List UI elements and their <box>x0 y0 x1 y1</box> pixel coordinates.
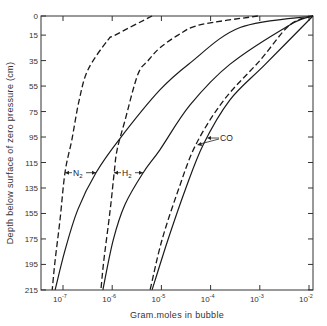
y-tick-label: 175 <box>25 235 39 244</box>
y-tick-label: 75 <box>29 108 38 117</box>
svg-text:CO: CO <box>220 133 233 143</box>
x-tick-label: 10-4 <box>201 293 215 304</box>
n2-annotation: N2 <box>65 168 96 179</box>
co-annotation: CO <box>197 133 233 146</box>
series-n2-solid <box>55 16 313 290</box>
svg-text:H2: H2 <box>122 168 132 179</box>
series-co-dashed <box>150 16 313 290</box>
x-axis-title: Gram.moles in bubble <box>130 310 224 320</box>
y-tick-label: 95 <box>29 133 38 142</box>
y-axis-title: Depth below surface of zero pressure (cm… <box>5 62 15 244</box>
y-tick-label: 195 <box>25 260 39 269</box>
y-tick-label: 135 <box>25 184 39 193</box>
series-n2-dashed <box>52 16 152 290</box>
y-tick-label: 115 <box>25 159 38 168</box>
plot-annotations: N2H2CO <box>65 133 233 179</box>
series-h2-dashed <box>101 16 258 290</box>
x-tick-label: 10-6 <box>102 293 116 304</box>
y-tick-label: 155 <box>25 209 39 218</box>
chart: 10-710-610-510-410-310-20153555759511513… <box>0 0 327 326</box>
svg-text:N2: N2 <box>73 168 83 179</box>
plot-series <box>52 16 313 290</box>
h2-annotation: H2 <box>114 168 143 179</box>
y-tick-label: 35 <box>29 57 38 66</box>
x-tick-label: 10-7 <box>53 293 67 304</box>
series-co-solid <box>152 16 313 290</box>
x-tick-label: 10-3 <box>250 293 264 304</box>
y-tick-label: 55 <box>29 82 38 91</box>
y-tick-label: 15 <box>29 31 38 40</box>
plot-axes: 10-710-610-510-410-310-20153555759511513… <box>25 12 313 304</box>
y-tick-label: 0 <box>34 12 39 21</box>
x-tick-label: 10-5 <box>152 293 166 304</box>
y-tick-label: 215 <box>25 286 39 295</box>
x-tick-label: 10-2 <box>299 293 313 304</box>
series-h2-solid <box>103 16 313 290</box>
